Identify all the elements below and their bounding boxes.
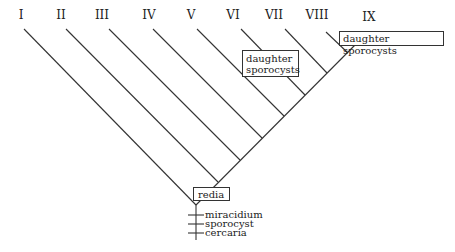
branch-IV-line — [153, 29, 262, 138]
branch-II-line — [66, 29, 218, 182]
branch-label-IX: IX — [362, 11, 375, 23]
box-text-line1: daughter — [246, 53, 295, 64]
branch-label-V: V — [187, 9, 196, 21]
box-text: redia — [198, 189, 224, 200]
branch-III-line — [109, 29, 240, 160]
stage-label-cercaria: cercaria — [205, 228, 247, 238]
branch-label-VII: VII — [265, 9, 283, 21]
branch-label-VI: VI — [226, 9, 239, 21]
redia-box: redia — [193, 187, 230, 201]
branch-label-IV: IV — [142, 9, 155, 21]
branch-I-line — [24, 29, 196, 205]
box-text-line2: sporocysts — [246, 64, 295, 75]
box-text: daughter sporocysts — [343, 33, 397, 56]
branch-label-I: I — [19, 9, 24, 21]
branch-label-II: II — [56, 9, 65, 21]
daughter-sporocysts-box-mid: daughter sporocysts — [242, 50, 299, 77]
daughter-sporocysts-box-top: daughter sporocysts — [339, 31, 444, 46]
cladogram: I II III IV V VI VII VIII IX daughter sp… — [0, 0, 455, 252]
branch-label-III: III — [95, 9, 109, 21]
branch-label-VIII: VIII — [306, 9, 329, 21]
